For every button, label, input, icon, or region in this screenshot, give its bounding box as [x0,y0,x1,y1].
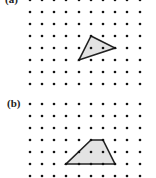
grid-dot [29,151,32,154]
grid-dot [29,35,32,38]
grid-dot [41,23,44,26]
grid-dot [126,83,129,86]
grid-dot [139,175,142,178]
grid-dot [102,83,105,86]
grid-dot [53,83,56,86]
grid-dot [78,35,81,38]
grid-dot [41,71,44,74]
grid-dot [139,0,142,1]
grid-dot [102,11,105,14]
grid-dot [90,83,93,86]
grid-dot [53,103,56,106]
grid-dot [29,175,32,178]
grid-dot [65,175,68,178]
grid-dot [139,103,142,106]
grid-dot [102,23,105,26]
grid-dot [90,23,93,26]
grid-dot [90,139,93,142]
grid-dot [78,59,81,62]
grid-dot [65,59,68,62]
grid-dot [126,103,129,106]
panel-a-dot-grid [29,0,142,85]
grid-dot [41,127,44,130]
grid-dot [102,71,105,74]
grid-dot [126,175,129,178]
grid-dot [29,127,32,130]
grid-dot [78,163,81,166]
grid-dot [41,175,44,178]
grid-dot [102,175,105,178]
grid-dot [65,163,68,166]
grid-dot [78,71,81,74]
grid-dot [102,139,105,142]
grid-dot [90,35,93,38]
grid-dot [139,163,142,166]
grid-dot [53,47,56,50]
grid-dot [126,11,129,14]
triangle-shape [79,36,115,60]
grid-dot [78,23,81,26]
grid-dot [102,0,105,1]
grid-dot [41,115,44,118]
grid-dot [126,0,129,1]
grid-dot [53,115,56,118]
grid-dot [139,71,142,74]
grid-dot [53,35,56,38]
grid-dot [29,0,32,1]
grid-dot [90,151,93,154]
grid-dot [29,47,32,50]
grid-dot [29,139,32,142]
grid-dot [139,59,142,62]
grid-dot [65,23,68,26]
grid-dot [114,127,117,130]
grid-dot [78,139,81,142]
grid-dot [53,59,56,62]
grid-dot [102,127,105,130]
grid-dot [78,11,81,14]
grid-dot [114,11,117,14]
grid-dot [126,115,129,118]
grid-dot [29,103,32,106]
grid-dot [53,0,56,1]
grid-dot [41,139,44,142]
grid-dot [126,59,129,62]
grid-dot [53,163,56,166]
grid-dot [53,71,56,74]
grid-dot [78,0,81,1]
grid-dot [126,163,129,166]
grid-dot [114,175,117,178]
grid-dot [114,71,117,74]
grid-dot [126,71,129,74]
grid-dot [139,127,142,130]
grid-dot [53,23,56,26]
grid-dot [102,59,105,62]
grid-dot [78,47,81,50]
grid-dot [126,47,129,50]
grid-dot [78,127,81,130]
grid-dot [78,103,81,106]
grid-dot [114,139,117,142]
grid-dot [29,23,32,26]
grid-dot [139,35,142,38]
grid-dot [65,139,68,142]
grid-dot [29,83,32,86]
grid-dot [90,115,93,118]
grid-dot [114,103,117,106]
grid-dot [90,59,93,62]
dot-grid-diagram [0,0,156,178]
grid-dot [65,0,68,1]
grid-dot [65,35,68,38]
grid-dot [65,11,68,14]
grid-dot [29,163,32,166]
grid-dot [102,47,105,50]
grid-dot [65,151,68,154]
grid-dot [53,11,56,14]
grid-dot [65,115,68,118]
grid-dot [53,139,56,142]
grid-dot [29,11,32,14]
grid-dot [41,83,44,86]
grid-dot [41,59,44,62]
grid-dot [102,163,105,166]
grid-dot [41,0,44,1]
grid-dot [65,127,68,130]
